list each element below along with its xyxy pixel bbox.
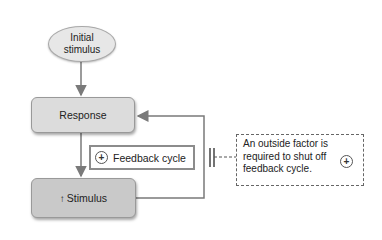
note-text: An outside factor is required to shut of…: [243, 138, 339, 176]
feedback-cycle-text: Feedback cycle: [113, 152, 186, 164]
stimulus-label: Stimulus: [67, 192, 107, 204]
initial-label-line2: stimulus: [64, 44, 101, 56]
outside-factor-note: An outside factor is required to shut of…: [236, 134, 364, 186]
plus-circle-icon: +: [340, 155, 353, 168]
increase-arrow-icon: ↑: [60, 193, 65, 204]
initial-label-line1: Initial: [64, 32, 101, 44]
plus-circle-icon: +: [95, 151, 108, 164]
response-label: Response: [59, 109, 106, 121]
stimulus-node: ↑ Stimulus: [31, 178, 136, 218]
feedback-cycle-label: + Feedback cycle: [89, 145, 195, 170]
initial-stimulus-node: Initial stimulus: [48, 26, 116, 62]
response-node: Response: [31, 97, 135, 133]
